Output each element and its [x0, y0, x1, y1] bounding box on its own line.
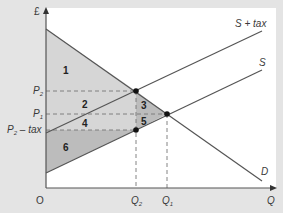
y-axis-label: £ [34, 6, 40, 17]
demand-label: D [261, 166, 268, 177]
region-2-area [46, 91, 136, 114]
tax-incidence-diagram: £ Q O S + tax S D P2 P1 P2 – tax Q2 Q1 1… [0, 0, 283, 213]
point-p1-q1 [164, 111, 170, 117]
region-1-label: 1 [63, 65, 69, 76]
region-3-label: 3 [141, 100, 147, 111]
p2-label: P2 [33, 85, 44, 97]
region-6-label: 6 [63, 142, 69, 153]
region-4-label: 4 [82, 118, 88, 129]
p2-minus-tax-label: P2 – tax [7, 124, 42, 136]
point-p2-q2 [133, 88, 139, 94]
region-2-label: 2 [82, 99, 88, 110]
p1-label: P1 [33, 108, 43, 120]
q1-label: Q1 [162, 195, 173, 207]
supply-label: S [259, 57, 266, 68]
origin-label: O [36, 195, 44, 206]
x-axis-label: Q [267, 195, 275, 206]
diagram-container: £ Q O S + tax S D P2 P1 P2 – tax Q2 Q1 1… [0, 0, 283, 213]
supply-with-tax-label: S + tax [235, 18, 267, 29]
region-4-area [46, 114, 136, 130]
q2-label: Q2 [131, 195, 143, 207]
point-p2tax-q2 [133, 127, 139, 133]
region-5-label: 5 [141, 116, 147, 127]
